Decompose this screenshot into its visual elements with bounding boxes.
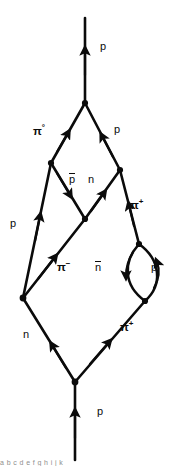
arrow-pi-minus	[38, 257, 55, 279]
label-pi-zero-charge: °	[42, 123, 45, 132]
label-pi-plus-lower: π+	[120, 318, 133, 333]
label-p-upper-right: p	[114, 124, 120, 135]
figure-footer-text: a b c d e f g h i j k	[0, 459, 180, 466]
vertex-top	[82, 100, 88, 106]
feynman-diagram-figure: p π° p p n π+ p π− n p n π+ p a b c d e …	[0, 0, 180, 466]
arrow-p-upper	[102, 136, 113, 157]
label-pi-minus: π−	[57, 258, 70, 273]
label-p-left: p	[10, 218, 16, 229]
label-nbar-glyph: n	[95, 262, 101, 273]
vertex-loop-top	[136, 241, 142, 247]
vertex-center	[82, 216, 88, 222]
label-p-loop: p	[151, 262, 157, 273]
vertex-left-lower	[20, 295, 27, 302]
vertex-left-upper	[48, 160, 54, 166]
label-pi-minus-glyph: π	[57, 261, 66, 273]
vertex-bottom	[72, 379, 79, 386]
label-pi-plus-upper-glyph: π	[130, 199, 139, 211]
label-n-lower-left: n	[23, 329, 29, 340]
label-pi-plus-lower-charge: +	[129, 319, 134, 328]
label-pi-plus-upper-charge: +	[139, 197, 144, 206]
label-pi-zero: π°	[33, 122, 45, 137]
label-pi-plus-upper: π+	[130, 196, 143, 211]
edge-loop-left-nbar	[128, 244, 145, 301]
vertex-loop-bottom	[142, 298, 148, 304]
arrow-pi-zero	[57, 133, 68, 152]
label-nbar-loop: n	[95, 262, 101, 273]
arrow-pi-plus-lower	[90, 342, 109, 364]
vertex-right-upper	[117, 167, 123, 173]
label-p-bottom: p	[97, 406, 103, 417]
arrow-n-lower	[52, 345, 66, 368]
label-pbar-glyph: p	[69, 174, 75, 185]
label-pi-plus-lower-glyph: π	[120, 321, 129, 333]
label-pi-minus-charge: −	[66, 259, 71, 268]
edge-pi-plus-lower	[75, 301, 145, 382]
edge-n-lower	[23, 298, 75, 382]
label-pbar: p	[69, 174, 75, 185]
label-pi-zero-glyph: π	[33, 125, 42, 137]
arrow-n	[91, 193, 104, 211]
label-p-top: p	[100, 41, 106, 52]
arrow-p-left	[35, 216, 40, 241]
diagram-canvas	[0, 0, 180, 466]
label-n-mid: n	[88, 174, 94, 185]
